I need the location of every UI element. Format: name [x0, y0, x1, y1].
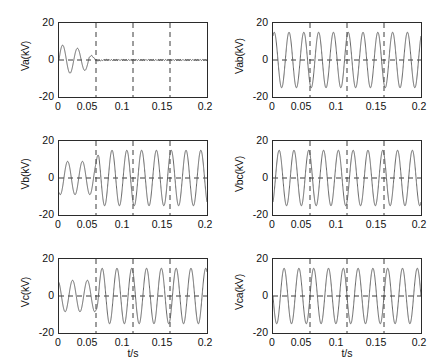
panel-vb-ytick-0: 20: [26, 134, 54, 146]
vbkv-trace-svg: [59, 141, 207, 215]
panel-vca-xtick-1: 0.05: [284, 336, 318, 348]
panel-vbc-ytick-0: 20: [240, 134, 268, 146]
panel-vc-plot: [58, 258, 208, 334]
panel-vbc-plot: [272, 140, 422, 216]
panel-va-xtick-1: 0.05: [70, 100, 104, 112]
panel-vb-xtick-2: 0.1: [107, 218, 137, 230]
panel-vbc-xtick-3: 0.15: [359, 218, 393, 230]
panel-vab-xtick-3: 0.15: [359, 100, 393, 112]
panel-va-xtick-2: 0.1: [107, 100, 137, 112]
panel-vb-plot: [58, 140, 208, 216]
panel-vb-ytick-1: 0: [26, 171, 54, 183]
panel-vbc-xtick-4: 0.2: [404, 218, 434, 230]
panel-vc-xtick-1: 0.05: [70, 336, 104, 348]
panel-vab-plot: [272, 22, 422, 98]
panel-vc-ytick-1: 0: [26, 289, 54, 301]
panel-vab-xtick-1: 0.05: [284, 100, 318, 112]
panel-vbc-xtick-0: 0: [260, 218, 284, 230]
vbckv-trace-svg: [273, 141, 421, 215]
panel-vb-xtick-4: 0.2: [190, 218, 220, 230]
panel-vb-xtick-3: 0.15: [145, 218, 179, 230]
panel-vca-ytick-0: 20: [240, 252, 268, 264]
panel-vca-xtick-4: 0.2: [404, 336, 434, 348]
panel-vb-xtick-1: 0.05: [70, 218, 104, 230]
panel-va-plot: [58, 22, 208, 98]
panel-va-xtick-0: 0: [46, 100, 70, 112]
vcakv-trace-svg: [273, 259, 421, 333]
panel-va-ytick-0: 20: [26, 16, 54, 28]
panel-vca-xlabel: t/s: [322, 347, 372, 359]
panel-vbc-xtick-2: 0.1: [321, 218, 351, 230]
panel-vb-xtick-0: 0: [46, 218, 70, 230]
panel-va-xtick-4: 0.2: [190, 100, 220, 112]
panel-vab-xtick-2: 0.1: [321, 100, 351, 112]
vckv-trace-svg: [59, 259, 207, 333]
panel-vc-xlabel: t/s: [108, 347, 158, 359]
panel-vca-ytick-1: 0: [240, 289, 268, 301]
panel-vab-xtick-4: 0.2: [404, 100, 434, 112]
panel-vc-xtick-4: 0.2: [190, 336, 220, 348]
vabkv-trace-svg: [273, 23, 421, 97]
panel-vc-ytick-0: 20: [26, 252, 54, 264]
panel-vc-xtick-0: 0: [46, 336, 70, 348]
panel-va-xtick-3: 0.15: [145, 100, 179, 112]
panel-vca-xtick-0: 0: [260, 336, 284, 348]
panel-vab-ytick-1: 0: [240, 53, 268, 65]
panel-vab-xtick-0: 0: [260, 100, 284, 112]
panel-va-ytick-1: 0: [26, 53, 54, 65]
panel-vca-plot: [272, 258, 422, 334]
vakv-trace-svg: [59, 23, 207, 97]
waveform-figure: Va(kV) 20 0 -20 0 0.05 0.1 0.15 0.2 Vab(…: [0, 0, 436, 361]
panel-vab-ytick-0: 20: [240, 16, 268, 28]
panel-vbc-xtick-1: 0.05: [284, 218, 318, 230]
panel-vbc-ytick-1: 0: [240, 171, 268, 183]
